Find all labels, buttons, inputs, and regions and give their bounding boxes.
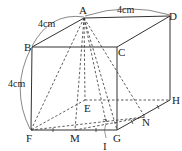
label-b: B <box>24 41 31 53</box>
edge-dc <box>117 16 170 47</box>
edge-bf <box>31 47 32 130</box>
edge-ad <box>84 16 170 18</box>
label-d: D <box>169 10 177 22</box>
line-an <box>84 18 145 117</box>
label-a: A <box>79 4 87 16</box>
dim-label-ab: 4cm <box>38 18 55 29</box>
label-f: F <box>26 132 32 144</box>
label-i: I <box>103 140 107 151</box>
label-n: N <box>142 116 150 128</box>
label-m: M <box>70 132 80 144</box>
dim-label-bf: 4cm <box>8 78 25 89</box>
cube-figure: A D B C E H F M G N I 4cm 4cm 4cm <box>0 0 182 151</box>
edge-ae <box>84 18 85 100</box>
label-h: H <box>172 94 180 106</box>
label-e: E <box>84 102 91 114</box>
cube-diagram: A D B C E H F M G N I 4cm 4cm 4cm <box>0 0 182 151</box>
label-g: G <box>113 132 121 144</box>
label-c: C <box>118 46 125 58</box>
dim-label-ad: 4cm <box>117 4 134 15</box>
